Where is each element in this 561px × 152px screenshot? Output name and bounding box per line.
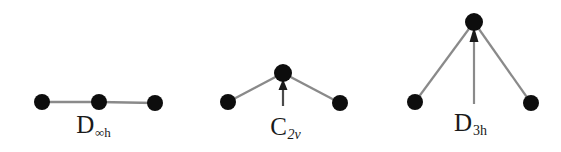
bond-right (283, 73, 340, 103)
point-group-symbol: D (454, 109, 472, 136)
atom-apex (465, 13, 483, 31)
atom-apex (274, 64, 292, 82)
atom-right (523, 95, 539, 111)
bond-left (415, 22, 474, 102)
bond-right (474, 22, 531, 103)
atom-right (147, 95, 163, 111)
atom-right (332, 95, 348, 111)
bond-left (228, 73, 283, 102)
diagram-panel-trigonal: D3h (374, 0, 561, 152)
point-group-label-trigonal: D3h (374, 110, 561, 138)
point-group-symbol: C (270, 113, 287, 140)
bond-right (99, 102, 155, 103)
point-group-symbol: D (76, 111, 94, 138)
point-group-label-linear: D∞h (0, 112, 187, 139)
atom-center (91, 94, 107, 110)
diagram-panel-bent: C2v (187, 0, 374, 152)
point-group-subscript: 3h (473, 123, 487, 138)
atom-left (34, 94, 50, 110)
point-group-subscript: 2v (288, 127, 301, 142)
atom-left (220, 94, 236, 110)
point-group-label-bent: C2v (187, 114, 374, 142)
point-group-subscript: ∞h (95, 125, 111, 140)
molecular-geometry-figure: D∞h C2v D3h (0, 0, 561, 152)
diagram-panel-linear: D∞h (0, 0, 187, 152)
atom-left (407, 94, 423, 110)
